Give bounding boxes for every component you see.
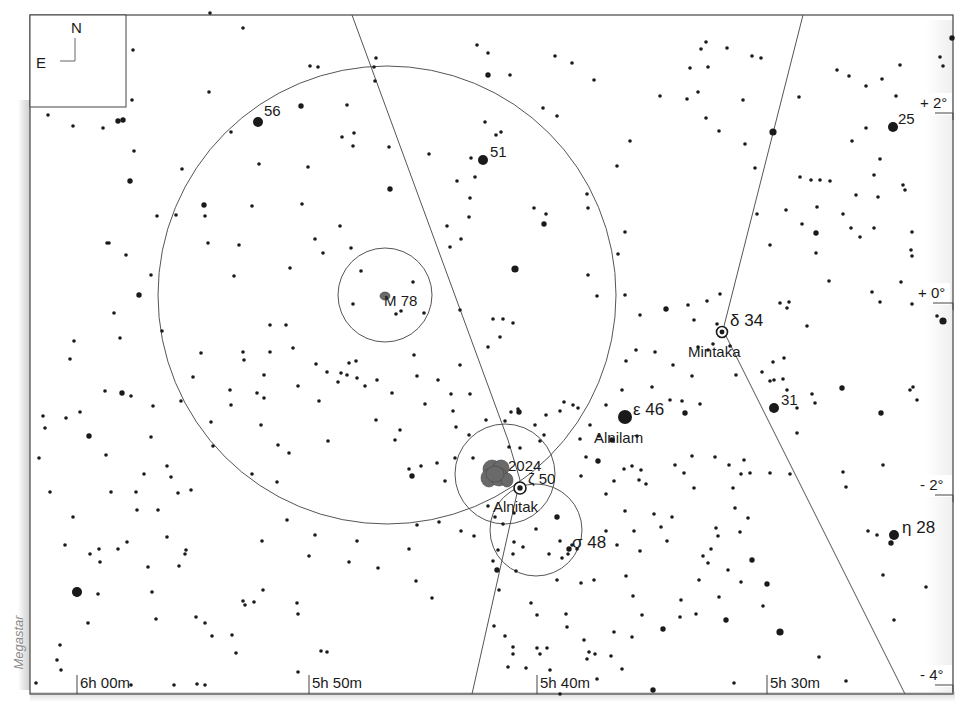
star: [566, 546, 571, 551]
star: [201, 202, 206, 207]
star: [209, 420, 213, 424]
star: [390, 391, 394, 395]
star: [295, 601, 299, 605]
star: [150, 590, 154, 594]
star: [503, 634, 507, 638]
star: [486, 504, 490, 508]
star: [135, 508, 139, 512]
star: [177, 564, 181, 568]
star: [97, 547, 101, 551]
star: [398, 428, 402, 432]
star: [615, 543, 619, 547]
object-label: ζ 50: [528, 470, 555, 487]
star: [787, 300, 791, 304]
star: [498, 335, 502, 339]
star: [407, 467, 411, 471]
star: [321, 251, 325, 255]
star: [132, 149, 136, 153]
star: [524, 666, 528, 670]
star: [435, 461, 439, 465]
star: [827, 279, 831, 283]
ra-label: 5h 50m: [312, 674, 362, 691]
star: [731, 486, 735, 490]
star: [449, 392, 453, 396]
star: [835, 68, 839, 72]
star: [924, 585, 928, 589]
star: [455, 179, 459, 183]
star: [509, 410, 513, 414]
star: [875, 533, 879, 537]
star: [864, 126, 868, 130]
star: [308, 64, 312, 68]
star: [850, 139, 854, 143]
star: [242, 358, 246, 362]
star: [260, 539, 264, 543]
star: [296, 384, 300, 388]
star: [229, 403, 233, 407]
star: [915, 398, 919, 402]
star: [718, 292, 722, 296]
star: [870, 290, 874, 294]
star: [259, 423, 263, 427]
star: [179, 399, 183, 403]
star: [692, 318, 696, 322]
star: [437, 520, 441, 524]
star: [78, 410, 82, 414]
star: [604, 492, 608, 496]
star: [544, 413, 548, 417]
star: [784, 208, 788, 212]
star: [630, 464, 634, 468]
star: [203, 621, 207, 625]
star: [638, 313, 642, 317]
star: [228, 388, 232, 392]
star: [564, 612, 568, 616]
star: [314, 362, 318, 366]
star: [592, 578, 596, 582]
star: [189, 488, 193, 492]
object-label: 25: [898, 110, 915, 127]
star: [430, 596, 434, 600]
star: [459, 529, 463, 533]
star: [484, 418, 488, 422]
bright-star: [478, 155, 488, 165]
star: [130, 98, 134, 102]
star: [595, 458, 600, 463]
star: [160, 329, 164, 333]
bright-star: [618, 410, 632, 424]
star: [86, 433, 91, 438]
star: [555, 114, 559, 118]
star: [760, 370, 764, 374]
star: [506, 665, 510, 669]
star: [782, 356, 786, 360]
star: [772, 378, 776, 382]
credit-label: Megastar: [11, 613, 26, 673]
star: [753, 166, 757, 170]
star: [313, 237, 317, 241]
star: [553, 54, 557, 58]
star: [592, 78, 596, 82]
star: [287, 451, 291, 455]
star: [768, 379, 772, 383]
star: [535, 613, 539, 617]
star: [901, 183, 905, 187]
star: [232, 274, 236, 278]
star: [686, 303, 690, 307]
star: [680, 399, 684, 403]
star: [363, 384, 367, 388]
star: [746, 516, 750, 520]
star: [34, 681, 38, 685]
star: [88, 552, 92, 556]
star: [584, 455, 588, 459]
star: [109, 490, 113, 494]
star: [586, 206, 590, 210]
star: [542, 433, 546, 437]
star: [349, 246, 353, 250]
star: [423, 402, 427, 406]
star: [706, 561, 710, 565]
star: [872, 173, 876, 177]
star: [910, 254, 914, 258]
object-label: σ 48: [572, 533, 606, 552]
star: [411, 280, 415, 284]
star: [682, 471, 686, 475]
star: [709, 547, 713, 551]
